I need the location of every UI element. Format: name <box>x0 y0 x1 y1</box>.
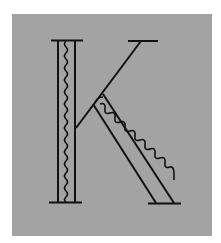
leg-top-cap <box>95 97 103 103</box>
leg-right-line <box>103 94 174 203</box>
arm-diagonal <box>76 41 141 128</box>
decorative-letter-k <box>0 0 221 243</box>
leg-wavy-line <box>100 104 174 180</box>
stem-wavy-line <box>65 41 68 202</box>
leg-left-line <box>93 104 156 203</box>
